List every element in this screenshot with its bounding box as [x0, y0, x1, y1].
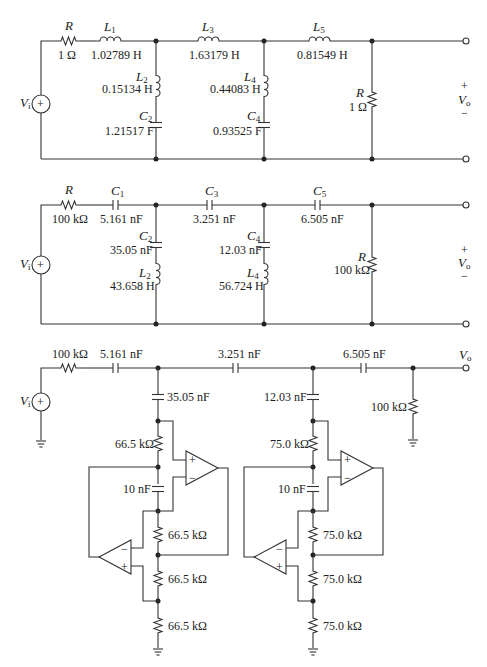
resistor-icon	[57, 37, 81, 45]
svg-text:100 kΩ: 100 kΩ	[334, 263, 370, 277]
svg-text:100 kΩ: 100 kΩ	[371, 400, 407, 414]
svg-text:−: −	[461, 106, 468, 120]
svg-text:6.505 nF: 6.505 nF	[343, 347, 386, 361]
circuit-1-lc-ladder: + Vi R 1 Ω L1 1.02789 H L3 1.63179 H L5 …	[20, 18, 471, 162]
svg-text:C2: C2	[139, 108, 152, 124]
svg-text:−: −	[461, 269, 468, 283]
inductor-icon	[264, 259, 268, 289]
svg-text:66.5 kΩ: 66.5 kΩ	[168, 572, 207, 586]
inductor-icon	[304, 37, 334, 41]
svg-text:1.21517 F: 1.21517 F	[105, 124, 154, 138]
svg-text:100 kΩ: 100 kΩ	[52, 347, 88, 361]
svg-text:Vo: Vo	[459, 347, 472, 363]
source-label: Vi	[20, 95, 31, 111]
ground-icon	[308, 649, 318, 655]
svg-text:75.0 kΩ: 75.0 kΩ	[323, 528, 362, 542]
svg-text:5.161 nF: 5.161 nF	[100, 212, 143, 226]
resistor-icon	[309, 614, 317, 638]
svg-text:−: −	[276, 542, 283, 556]
resistor-icon	[309, 523, 317, 547]
svg-text:1.02789 H: 1.02789 H	[91, 48, 142, 62]
resistor-icon	[154, 523, 162, 547]
svg-text:R: R	[64, 18, 73, 33]
capacitor-icon	[361, 363, 366, 373]
svg-text:−: −	[344, 471, 351, 485]
svg-text:C3: C3	[205, 183, 219, 199]
svg-text:C4: C4	[247, 108, 261, 124]
svg-text:Vi: Vi	[20, 256, 31, 272]
resistor-icon	[57, 201, 81, 209]
resistor-icon	[154, 432, 162, 456]
resistor-icon	[154, 614, 162, 638]
output-terminal	[463, 365, 469, 371]
svg-text:1 Ω: 1 Ω	[349, 100, 367, 114]
capacitor-icon	[152, 395, 164, 400]
gic-1: 35.05 nF 66.5 kΩ 10 nF 66.5 kΩ 66.5 kΩ	[89, 368, 228, 655]
svg-text:66.5 kΩ: 66.5 kΩ	[168, 528, 207, 542]
svg-text:+: +	[276, 560, 283, 574]
resistor-icon	[154, 567, 162, 591]
svg-text:12.03 nF: 12.03 nF	[219, 243, 262, 257]
svg-text:10 nF: 10 nF	[278, 482, 306, 496]
svg-text:C4: C4	[247, 228, 261, 244]
svg-text:R: R	[355, 85, 364, 100]
svg-text:+: +	[121, 560, 128, 574]
svg-text:0.15134 H: 0.15134 H	[102, 82, 153, 96]
inductor-icon	[264, 71, 268, 101]
inductor-icon	[156, 259, 160, 289]
ground-icon	[153, 649, 163, 655]
circuit-3-gic-realization: + Vi 100 kΩ 5.161 nF 3.251 nF 6.505 nF V…	[20, 347, 472, 655]
svg-text:100 kΩ: 100 kΩ	[52, 212, 88, 226]
svg-text:12.03 nF: 12.03 nF	[264, 390, 307, 404]
svg-text:1 Ω: 1 Ω	[58, 48, 76, 62]
svg-text:35.05 nF: 35.05 nF	[110, 243, 153, 257]
svg-text:5.161 nF: 5.161 nF	[100, 347, 143, 361]
svg-text:43.658 H: 43.658 H	[110, 279, 155, 293]
svg-text:75.0 kΩ: 75.0 kΩ	[323, 619, 362, 633]
svg-text:L5: L5	[312, 19, 325, 35]
svg-text:R: R	[357, 249, 366, 264]
svg-text:+: +	[189, 453, 196, 467]
svg-text:75.0 kΩ: 75.0 kΩ	[323, 572, 362, 586]
ground-icon	[36, 441, 46, 447]
circuit-figure: + Vi R 1 Ω L1 1.02789 H L3 1.63179 H L5 …	[0, 0, 487, 667]
resistor-icon	[368, 88, 376, 112]
ground-icon	[408, 440, 418, 446]
svg-text:R: R	[64, 182, 73, 197]
svg-text:C5: C5	[313, 183, 327, 199]
capacitor-icon	[307, 487, 319, 492]
svg-text:+: +	[344, 453, 351, 467]
resistor-icon	[309, 432, 317, 456]
capacitor-icon	[152, 487, 164, 492]
circuit-2-scaled-ladder: + Vi R 100 kΩ C1 5.161 nF C3 3.251 nF C5…	[20, 182, 471, 327]
svg-text:+: +	[37, 97, 44, 111]
inductor-icon	[95, 37, 125, 41]
capacitor-icon	[113, 363, 118, 373]
capacitor-icon	[233, 363, 238, 373]
svg-text:Vi: Vi	[20, 393, 31, 409]
svg-text:−: −	[189, 471, 196, 485]
svg-text:+: +	[37, 258, 44, 272]
resistor-icon	[57, 364, 81, 372]
svg-text:C1: C1	[111, 183, 124, 199]
svg-text:+: +	[461, 79, 468, 93]
svg-text:0.81549 H: 0.81549 H	[297, 48, 348, 62]
L1-label: L1	[103, 19, 116, 35]
output-terminal	[463, 321, 469, 327]
capacitor-icon	[113, 200, 118, 210]
resistor-icon	[409, 395, 417, 419]
svg-text:C2: C2	[139, 228, 152, 244]
svg-text:66.5 kΩ: 66.5 kΩ	[168, 619, 207, 633]
svg-text:10 nF: 10 nF	[123, 482, 151, 496]
inductor-icon	[156, 71, 160, 101]
svg-text:66.5 kΩ: 66.5 kΩ	[115, 437, 154, 451]
inductor-icon	[193, 37, 223, 41]
output-terminal	[463, 38, 469, 44]
capacitor-icon	[307, 395, 319, 400]
svg-text:0.44083 H: 0.44083 H	[210, 82, 261, 96]
svg-text:1.63179 H: 1.63179 H	[189, 48, 240, 62]
svg-text:−: −	[121, 542, 128, 556]
gic-2: 12.03 nF 75.0 kΩ 10 nF 75.0 kΩ 75.0 kΩ	[244, 368, 383, 655]
svg-text:+: +	[37, 395, 44, 409]
svg-text:75.0 kΩ: 75.0 kΩ	[270, 437, 309, 451]
